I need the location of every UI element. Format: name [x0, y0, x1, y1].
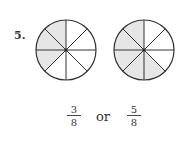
shaded-sector: [144, 50, 165, 80]
fraction-circles: [0, 0, 193, 100]
or-connector: or: [96, 109, 110, 124]
circle-five-eighths: [114, 20, 174, 80]
shaded-sector: [36, 50, 66, 71]
numerator: 5: [127, 104, 141, 116]
denominator: 8: [127, 116, 141, 128]
denominator: 8: [67, 116, 81, 128]
fraction-three-eighths: 3 8: [67, 104, 81, 128]
circle-three-eighths: [36, 20, 96, 80]
fraction-five-eighths: 5 8: [127, 104, 141, 128]
numerator: 3: [67, 104, 81, 116]
